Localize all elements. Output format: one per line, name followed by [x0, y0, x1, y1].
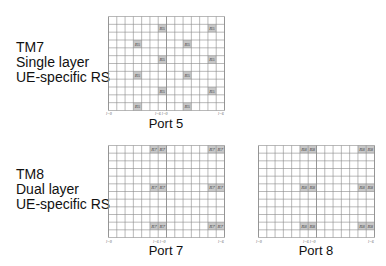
- reference-signal-label: R8: [300, 224, 307, 229]
- reference-signal-cell: R8: [300, 222, 308, 230]
- reference-signal-cell: R5: [133, 103, 141, 111]
- reference-signal-label: R8: [358, 185, 365, 190]
- reference-signal-label: R7: [217, 224, 224, 229]
- tm8-layer: Dual layer: [16, 182, 110, 197]
- reference-signal-cell: R7: [216, 184, 224, 192]
- reference-signal-label: R5: [208, 57, 215, 62]
- reference-signal-cell: R8: [358, 222, 366, 230]
- reference-signal-cell: R8: [366, 184, 374, 192]
- resource-grid-svg: R5R5R5R5R5R5R5R5R5R5R5R5: [108, 16, 225, 111]
- reference-signal-cell: R7: [150, 146, 158, 154]
- port-7-resource-grid: R7R7R7R7R7R7R7R7R7R7R7R7: [108, 145, 225, 238]
- reference-signal-cell: R5: [183, 71, 191, 79]
- reference-signal-label: R8: [358, 147, 365, 152]
- tm8-title: TM8: [16, 167, 110, 182]
- reference-signal-label: R7: [217, 147, 224, 152]
- reference-signal-label: R7: [150, 147, 157, 152]
- tm7-title: TM7: [16, 40, 110, 55]
- reference-signal-label: R8: [309, 185, 316, 190]
- reference-signal-label: R8: [367, 147, 374, 152]
- reference-signal-cell: R8: [366, 222, 374, 230]
- reference-signal-label: R8: [367, 224, 374, 229]
- reference-signal-label: R5: [183, 104, 190, 109]
- reference-signal-cell: R7: [150, 222, 158, 230]
- reference-signal-cell: R7: [158, 184, 166, 192]
- reference-signal-cell: R8: [358, 146, 366, 154]
- reference-signal-label: R7: [208, 224, 215, 229]
- reference-signal-cell: R8: [358, 184, 366, 192]
- reference-signal-label: R5: [134, 73, 141, 78]
- reference-signal-cell: R7: [208, 146, 216, 154]
- reference-signal-label: R8: [300, 185, 307, 190]
- reference-signal-cell: R5: [158, 87, 166, 95]
- reference-signal-cell: R5: [158, 56, 166, 64]
- reference-signal-label: R7: [208, 185, 215, 190]
- port-8-resource-grid: R8R8R8R8R8R8R8R8R8R8R8R8: [258, 145, 375, 238]
- reference-signal-label: R7: [208, 147, 215, 152]
- reference-signal-cell: R7: [216, 146, 224, 154]
- reference-signal-cell: R8: [308, 184, 316, 192]
- reference-signal-cell: R8: [308, 146, 316, 154]
- reference-signal-cell: R5: [208, 56, 216, 64]
- reference-signal-label: R7: [217, 185, 224, 190]
- reference-signal-cell: R5: [133, 40, 141, 48]
- resource-grid-svg: R8R8R8R8R8R8R8R8R8R8R8R8: [258, 145, 375, 238]
- reference-signal-cell: R7: [216, 222, 224, 230]
- reference-signal-cell: R5: [208, 24, 216, 32]
- reference-signal-label: R5: [208, 89, 215, 94]
- reference-signal-label: R7: [159, 147, 166, 152]
- reference-signal-cell: R5: [133, 71, 141, 79]
- reference-signal-cell: R5: [158, 24, 166, 32]
- reference-signal-label: R8: [358, 224, 365, 229]
- reference-signal-label: R7: [150, 224, 157, 229]
- reference-signal-cell: R8: [308, 222, 316, 230]
- reference-signal-label: R8: [309, 224, 316, 229]
- reference-signal-cell: R7: [208, 184, 216, 192]
- tm8-description: TM8 Dual layer UE-specific RS: [16, 167, 110, 212]
- reference-signal-label: R8: [309, 147, 316, 152]
- reference-signal-label: R8: [367, 185, 374, 190]
- reference-signal-label: R5: [159, 57, 166, 62]
- tm7-description: TM7 Single layer UE-specific RS: [16, 40, 110, 85]
- reference-signal-cell: R7: [150, 184, 158, 192]
- resource-grid-svg: R7R7R7R7R7R7R7R7R7R7R7R7: [108, 145, 225, 238]
- reference-signal-cell: R7: [158, 146, 166, 154]
- reference-signal-label: R5: [159, 89, 166, 94]
- reference-signal-cell: R8: [366, 146, 374, 154]
- port-7-label: Port 7: [106, 243, 226, 258]
- port-8-label: Port 8: [256, 243, 376, 258]
- reference-signal-cell: R5: [183, 40, 191, 48]
- port-5-label: Port 5: [106, 116, 226, 131]
- reference-signal-label: R7: [159, 185, 166, 190]
- tm7-rs-type: UE-specific RS: [16, 70, 110, 85]
- reference-signal-cell: R8: [300, 184, 308, 192]
- port-5-resource-grid: R5R5R5R5R5R5R5R5R5R5R5R5: [108, 16, 225, 111]
- reference-signal-cell: R8: [300, 146, 308, 154]
- tm8-rs-type: UE-specific RS: [16, 197, 110, 212]
- reference-signal-cell: R5: [183, 103, 191, 111]
- reference-signal-label: R7: [159, 224, 166, 229]
- reference-signal-label: R5: [159, 26, 166, 31]
- reference-signal-label: R5: [134, 104, 141, 109]
- tm7-layer: Single layer: [16, 55, 110, 70]
- reference-signal-cell: R7: [158, 222, 166, 230]
- reference-signal-label: R5: [183, 42, 190, 47]
- reference-signal-label: R8: [300, 147, 307, 152]
- reference-signal-cell: R5: [208, 87, 216, 95]
- reference-signal-cell: R7: [208, 222, 216, 230]
- reference-signal-label: R5: [208, 26, 215, 31]
- reference-signal-label: R5: [134, 42, 141, 47]
- reference-signal-label: R5: [183, 73, 190, 78]
- reference-signal-label: R7: [150, 185, 157, 190]
